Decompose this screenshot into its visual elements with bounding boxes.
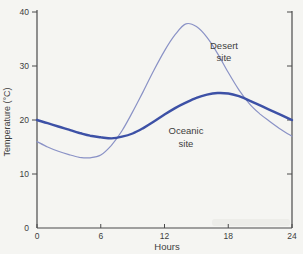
temperature-chart: 01020304006121824HoursTemperature (°C)De… xyxy=(0,0,303,254)
temperature-diurnal-figure: 01020304006121824HoursTemperature (°C)De… xyxy=(0,0,303,254)
y-tick-label: 40 xyxy=(20,7,30,17)
y-tick-label: 10 xyxy=(20,169,30,179)
oceanic-site-label-line: site xyxy=(179,138,194,149)
figure-background xyxy=(0,0,303,254)
y-axis-title: Temperature (°C) xyxy=(2,87,12,156)
x-tick-label: 18 xyxy=(224,231,234,241)
desert-site-label-line: site xyxy=(217,52,232,63)
scan-smudge xyxy=(212,219,290,226)
y-tick-label: 30 xyxy=(20,61,30,71)
x-tick-label: 0 xyxy=(35,231,40,241)
y-tick-label: 0 xyxy=(24,223,29,233)
y-tick-label: 20 xyxy=(20,115,30,125)
desert-site-label-line: Desert xyxy=(210,40,238,51)
x-tick-label: 12 xyxy=(160,231,170,241)
x-tick-label: 24 xyxy=(287,231,297,241)
x-axis-title: Hours xyxy=(154,241,180,252)
x-tick-label: 6 xyxy=(98,231,103,241)
oceanic-site-label-line: Oceanic xyxy=(169,125,204,136)
